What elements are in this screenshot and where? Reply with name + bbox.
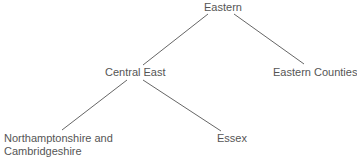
- edge-central-east-essex: [143, 80, 221, 131]
- node-essex: Essex: [217, 132, 247, 145]
- node-label-line1: Northamptonshire and: [4, 132, 113, 145]
- node-label: Eastern: [204, 1, 242, 13]
- node-northamptonshire-cambridgeshire: Northamptonshire and Cambridgeshire: [4, 132, 113, 158]
- edge-central-east-northamptonshire: [62, 80, 127, 130]
- node-central-east: Central East: [105, 66, 166, 79]
- node-label: Central East: [105, 66, 166, 78]
- node-eastern: Eastern: [204, 1, 242, 14]
- edge-eastern-eastern-counties: [234, 14, 304, 64]
- node-label: Eastern Counties: [273, 66, 357, 78]
- edge-eastern-central-east: [143, 14, 208, 65]
- node-eastern-counties: Eastern Counties: [273, 66, 357, 79]
- node-label-line2: Cambridgeshire: [4, 145, 113, 158]
- node-label: Essex: [217, 132, 247, 144]
